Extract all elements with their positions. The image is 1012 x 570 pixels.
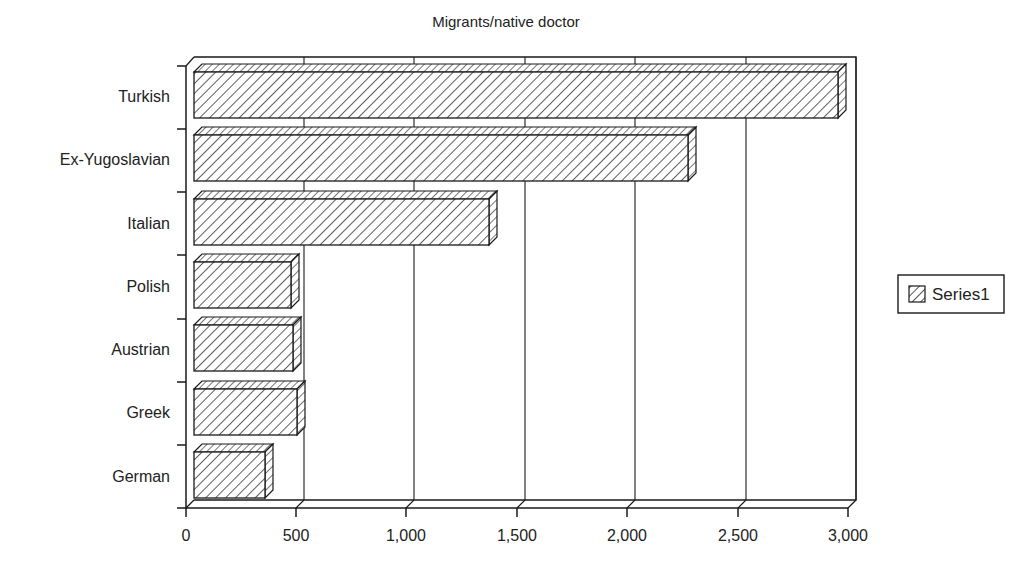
y-axis-label-austrian: Austrian xyxy=(111,341,170,358)
bar-chart-figure: Migrants/native doctor Turkish Ex-Yugosl… xyxy=(0,0,1012,570)
chart-title: Migrants/native doctor xyxy=(432,13,580,30)
y-axis-label-german: German xyxy=(112,468,170,485)
y-axis-label-greek: Greek xyxy=(126,404,171,421)
x-axis-label-0: 0 xyxy=(182,527,191,544)
bar-end-cap xyxy=(265,444,273,498)
bar-italian[interactable] xyxy=(194,191,497,245)
x-axis-label-1000: 1,000 xyxy=(386,527,426,544)
y-axis-label-italian: Italian xyxy=(127,215,170,232)
bar-front-face xyxy=(194,452,265,498)
bar-austrian[interactable] xyxy=(194,317,301,371)
bar-german[interactable] xyxy=(194,444,273,498)
bar-ex-yugoslavian[interactable] xyxy=(194,127,696,181)
bar-end-cap xyxy=(293,317,301,371)
y-axis-label-turkish: Turkish xyxy=(118,88,170,105)
y-axis-label-ex-yugoslavian: Ex-Yugoslavian xyxy=(60,151,170,168)
bar-top-face xyxy=(194,317,301,325)
bar-top-face xyxy=(194,381,305,389)
x-axis-label-500: 500 xyxy=(283,527,310,544)
legend-entry-label: Series1 xyxy=(932,285,990,304)
bar-turkish[interactable] xyxy=(194,64,846,118)
bar-top-face xyxy=(194,64,846,72)
bar-end-cap xyxy=(489,191,497,245)
x-axis-label-1500: 1,500 xyxy=(497,527,537,544)
bar-end-cap xyxy=(291,254,299,308)
x-axis-label-3000: 3,000 xyxy=(828,527,868,544)
bar-top-face xyxy=(194,127,696,135)
bar-greek[interactable] xyxy=(194,381,305,435)
bar-front-face xyxy=(194,199,489,245)
bar-end-cap xyxy=(688,127,696,181)
bar-end-cap xyxy=(297,381,305,435)
bar-top-face xyxy=(194,191,497,199)
bar-end-cap xyxy=(838,64,846,118)
bar-front-face xyxy=(194,325,293,371)
chart-canvas: Migrants/native doctor Turkish Ex-Yugosl… xyxy=(0,0,1012,570)
bar-top-face xyxy=(194,254,299,262)
bar-top-face xyxy=(194,444,273,452)
hatch-swatch-icon xyxy=(909,286,925,302)
x-axis-label-2000: 2,000 xyxy=(607,527,647,544)
bar-front-face xyxy=(194,389,297,435)
y-axis-label-polish: Polish xyxy=(126,278,170,295)
bar-polish[interactable] xyxy=(194,254,299,308)
bar-front-face xyxy=(194,135,688,181)
x-axis-label-2500: 2,500 xyxy=(718,527,758,544)
bar-front-face xyxy=(194,72,838,118)
legend[interactable]: Series1 xyxy=(898,275,1004,313)
bar-front-face xyxy=(194,262,291,308)
